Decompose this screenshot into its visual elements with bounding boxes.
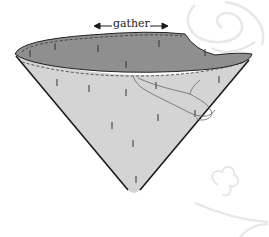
watermark-flower-icon [195, 167, 268, 237]
gather-label: gather [113, 17, 150, 30]
watermark-swirl-icon [188, 2, 263, 52]
cone-diagram [0, 0, 269, 237]
